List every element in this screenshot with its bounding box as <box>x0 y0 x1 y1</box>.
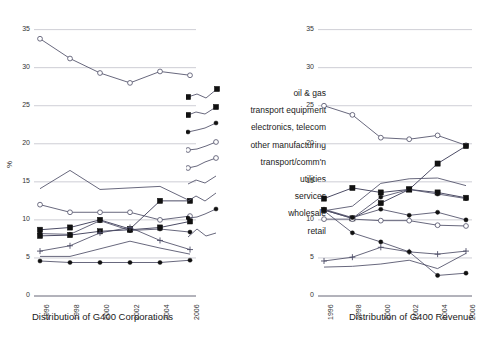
series-retail <box>38 36 193 85</box>
data-point <box>464 271 468 275</box>
legend-marker-icon <box>186 120 220 136</box>
legend-marker-icon <box>186 86 220 102</box>
data-point <box>38 231 42 235</box>
x-tick-label: 2000 <box>103 304 110 320</box>
y-tick-label: 20 <box>16 139 30 146</box>
data-point <box>37 248 43 254</box>
data-point <box>38 259 42 263</box>
x-tick-label: 1996 <box>43 304 50 320</box>
data-point <box>379 207 383 211</box>
data-point <box>38 36 43 41</box>
data-point <box>157 237 163 243</box>
data-point <box>98 71 103 76</box>
y-tick-label: 0 <box>16 291 30 298</box>
x-axis-title-right: Distribution of G400 Revenue <box>349 311 474 322</box>
legend-marker-icon <box>186 155 220 171</box>
y-tick-label: 10 <box>16 215 30 222</box>
data-point <box>157 198 162 203</box>
data-point <box>158 260 162 264</box>
y-tick-label: 20 <box>300 139 314 146</box>
data-point <box>350 185 355 190</box>
y-tick-label: 25 <box>16 101 30 108</box>
series-electronics-telecom <box>38 219 192 237</box>
data-point <box>350 112 355 117</box>
legend-marker <box>214 121 218 125</box>
legend-line <box>188 123 216 132</box>
x-tick-label: 1996 <box>327 304 334 320</box>
data-point <box>407 250 411 254</box>
legend-marker <box>186 130 190 134</box>
legend-line <box>188 209 216 218</box>
series-line <box>40 241 190 256</box>
y-tick-label: 5 <box>300 253 314 260</box>
data-point <box>188 258 192 262</box>
legend-marker <box>186 94 191 99</box>
y-tick-label: 10 <box>300 215 314 222</box>
data-point <box>322 209 326 213</box>
data-point <box>321 196 326 201</box>
data-point <box>378 135 383 140</box>
data-point <box>378 218 383 223</box>
data-point <box>378 244 384 250</box>
data-point <box>407 187 411 191</box>
y-tick-label: 0 <box>300 291 314 298</box>
data-point <box>128 260 132 264</box>
data-point <box>158 69 163 74</box>
data-point <box>435 251 441 257</box>
data-point <box>435 133 440 138</box>
data-point <box>464 224 469 229</box>
series-line <box>324 209 466 220</box>
y-tick-label: 15 <box>16 177 30 184</box>
series-other-manufacturing <box>322 217 469 229</box>
legend-marker-icon <box>186 138 220 154</box>
data-point <box>379 195 383 199</box>
legend-marker <box>186 165 190 170</box>
legend-marker-icon <box>186 103 220 119</box>
data-point <box>128 80 133 85</box>
plot-area-revenue <box>300 0 483 338</box>
legend-marker-icon <box>186 206 220 222</box>
series-services <box>40 170 190 200</box>
series-other-manufacturing <box>38 202 193 222</box>
data-point <box>158 227 162 231</box>
figure: % Distribution of G400 Corporations 0510… <box>0 0 483 338</box>
series-wholesale <box>38 258 192 264</box>
legend-line <box>188 89 217 98</box>
data-point <box>407 213 411 217</box>
x-tick-label: 2004 <box>163 304 170 320</box>
legend-marker-icon <box>186 172 220 188</box>
chart-panel-revenue: 05101520253035199619982000200220042006 <box>300 0 483 338</box>
legend-marker <box>186 113 191 118</box>
data-point <box>68 260 72 264</box>
y-tick-label: 15 <box>300 177 314 184</box>
y-tick-label: 5 <box>16 253 30 260</box>
x-tick-label: 2006 <box>193 304 200 320</box>
legend-marker <box>213 105 218 110</box>
data-point <box>67 225 72 230</box>
data-point <box>321 258 327 264</box>
data-point <box>464 196 468 200</box>
series-line <box>40 39 190 83</box>
legend-line <box>188 158 216 168</box>
data-point <box>463 143 468 148</box>
data-point <box>158 217 163 222</box>
y-tick-label: 30 <box>300 63 314 70</box>
series-line <box>40 260 190 262</box>
data-point <box>68 210 73 215</box>
data-point <box>435 223 440 228</box>
data-point <box>435 161 440 166</box>
x-tick-label: 2002 <box>133 304 140 320</box>
legend-marker <box>214 86 219 91</box>
data-point <box>68 56 73 61</box>
legend-line <box>188 107 216 115</box>
legend-marker <box>214 139 219 144</box>
data-point <box>98 210 103 215</box>
legend-line <box>188 142 216 150</box>
series-line <box>324 247 466 261</box>
data-point <box>68 232 72 236</box>
data-point <box>436 192 440 196</box>
y-tick-label: 30 <box>16 63 30 70</box>
series-services <box>324 178 466 211</box>
data-point <box>98 219 102 223</box>
series-line <box>324 178 466 211</box>
